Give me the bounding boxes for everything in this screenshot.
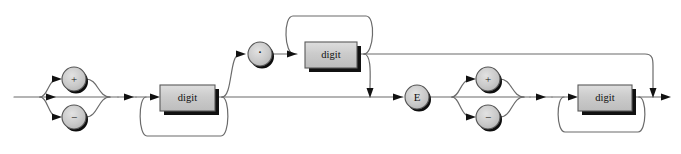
railroad-diagram: + − digit · digit E bbox=[0, 0, 681, 154]
arrow-into-minus-left bbox=[52, 114, 62, 121]
track-lines bbox=[14, 16, 662, 136]
fraction-merge-down-line bbox=[364, 54, 370, 88]
digit-fraction-label: digit bbox=[321, 49, 340, 60]
node-sign-plus-left[interactable]: + bbox=[62, 67, 88, 94]
arrow-into-exponent-digit bbox=[568, 94, 578, 101]
arrow-into-e-node bbox=[393, 94, 403, 101]
node-sign-minus-left[interactable]: − bbox=[62, 105, 88, 132]
arrow-exit bbox=[661, 94, 671, 101]
right-sign-minus-branch-out bbox=[500, 97, 524, 117]
arrow-into-fraction-digit bbox=[287, 51, 297, 58]
right-sign-plus-branch-out bbox=[500, 79, 524, 97]
e-node-label: E bbox=[414, 91, 421, 103]
left-sign-minus-branch-in bbox=[40, 97, 58, 117]
node-sign-minus-right[interactable]: − bbox=[476, 105, 502, 132]
left-sign-plus-branch-out bbox=[86, 79, 110, 97]
minus-left-label: − bbox=[71, 111, 77, 123]
fraction-branch-up-line bbox=[222, 54, 240, 97]
left-sign-plus-branch-in bbox=[40, 79, 58, 97]
arrow-into-plus-right bbox=[466, 76, 476, 83]
arrow-into-minus-right bbox=[466, 114, 476, 121]
node-decimal-point[interactable]: · bbox=[248, 42, 274, 69]
left-sign-minus-branch-out bbox=[86, 97, 110, 117]
arrow-after-left-sign bbox=[124, 94, 134, 101]
right-sign-plus-branch-in bbox=[452, 79, 472, 97]
arrow-after-right-sign bbox=[536, 94, 546, 101]
arrow-into-integer-digit bbox=[150, 94, 160, 101]
right-sign-minus-branch-in bbox=[452, 97, 472, 117]
railroad-diagram-canvas: + − digit · digit E bbox=[0, 0, 681, 154]
plus-right-label: + bbox=[485, 73, 491, 85]
minus-right-label: − bbox=[485, 111, 491, 123]
decimal-point-label: · bbox=[258, 44, 263, 60]
plus-left-label: + bbox=[71, 73, 77, 85]
node-digit-integer[interactable]: digit bbox=[160, 85, 219, 115]
node-exponent-e[interactable]: E bbox=[405, 85, 431, 112]
digit-integer-label: digit bbox=[178, 92, 197, 103]
node-digit-fraction[interactable]: digit bbox=[305, 42, 361, 72]
node-digit-exponent[interactable]: digit bbox=[578, 85, 636, 115]
arrow-into-decimal-point bbox=[236, 51, 246, 58]
arrow-left-split bbox=[46, 94, 56, 101]
node-sign-plus-right[interactable]: + bbox=[476, 67, 502, 94]
arrow-into-plus-left bbox=[52, 76, 62, 83]
digit-exponent-label: digit bbox=[595, 92, 614, 103]
